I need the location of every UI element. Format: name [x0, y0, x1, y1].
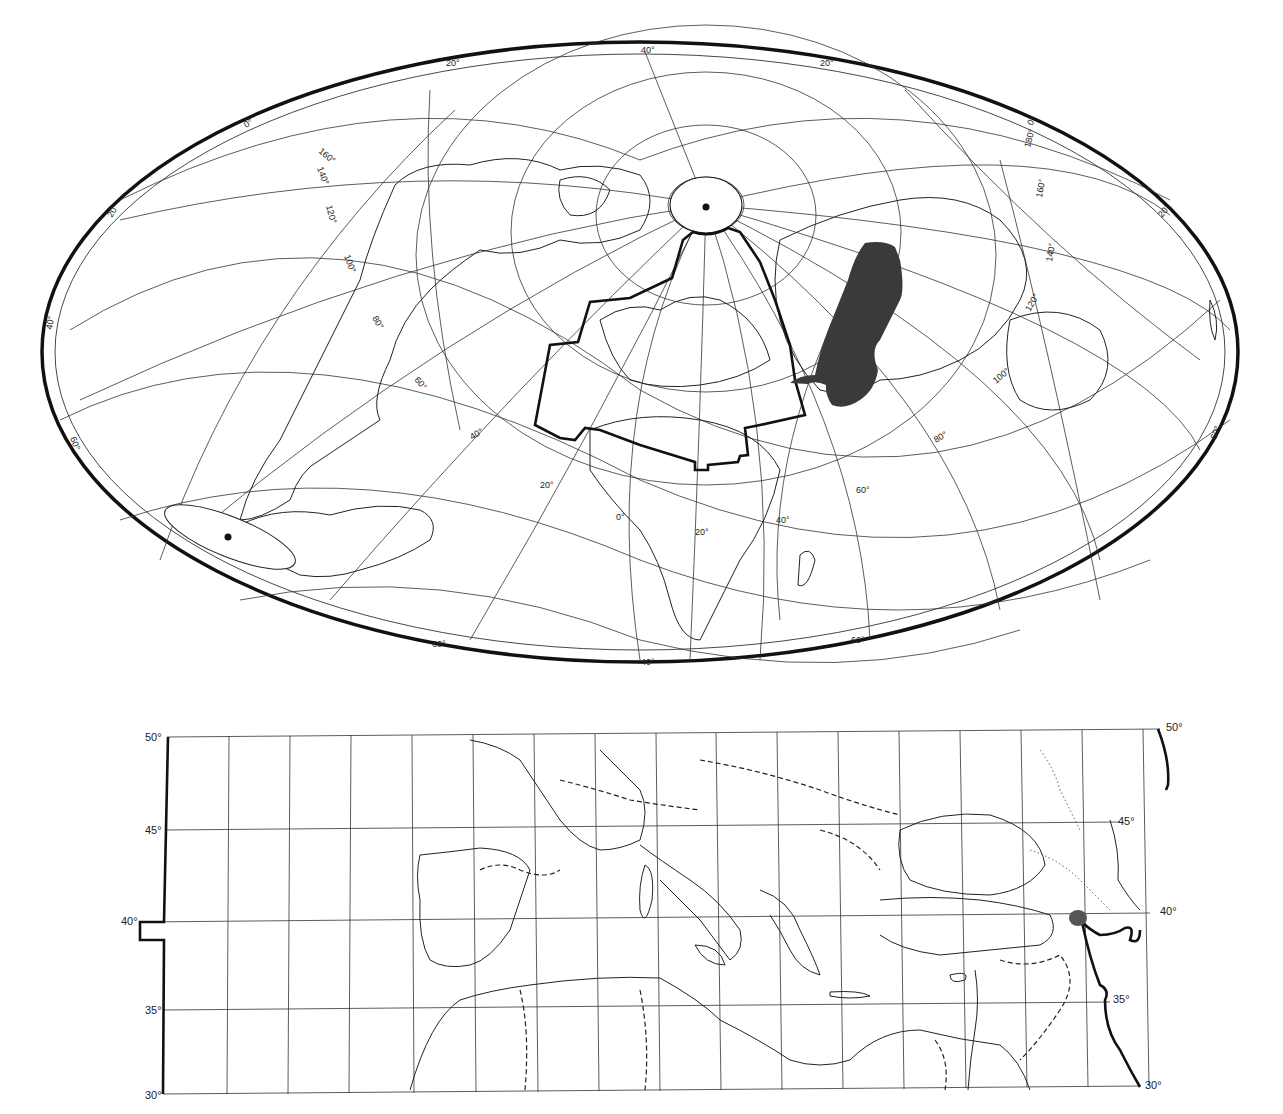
- label-mid-60: 60°: [856, 485, 870, 495]
- map-figure: 40° 20° 20° 0° 160° 140° 120° 100° 80° 6…: [0, 0, 1283, 1114]
- detail-coastlines: [410, 740, 1140, 1090]
- label-mid-0: 0°: [616, 512, 625, 522]
- label-top-40: 40°: [641, 45, 655, 55]
- label-mid-20: 20°: [540, 480, 554, 490]
- lat-label-45-left: 45°: [145, 824, 162, 836]
- label-mid-40b: 40°: [776, 515, 790, 525]
- label-bottom-60-left: 60°: [432, 639, 446, 649]
- label-bottom-40: 40°: [641, 657, 655, 667]
- eastern-boundary: [1082, 729, 1168, 1087]
- map-outer-boundary: [42, 42, 1238, 662]
- south-pole-dot: [225, 534, 232, 541]
- label-top-left-20: 20°: [446, 58, 460, 68]
- lat-label-50-right: 50°: [1166, 721, 1183, 733]
- lat-labels-left: 50° 45° 40° 35° 30°: [121, 731, 162, 1101]
- lower-detail-map: 50° 45° 40° 35° 30° 50° 45° 40° 35° 30°: [121, 721, 1183, 1101]
- lat-label-30-left: 30°: [145, 1089, 162, 1101]
- shaded-spot: [1069, 910, 1087, 926]
- lat-label-40-right: 40°: [1160, 905, 1177, 917]
- north-pole-dot: [703, 204, 710, 211]
- western-boundary: [140, 737, 168, 1094]
- label-bottom-60-right: 60°: [851, 635, 865, 645]
- label-top-right-20: 20°: [820, 58, 834, 68]
- lat-label-35-left: 35°: [145, 1004, 162, 1016]
- lat-label-50-left: 50°: [145, 731, 162, 743]
- parallels: [140, 729, 1160, 1094]
- label-mid-20b: 20°: [695, 527, 709, 537]
- meridians: [227, 729, 1149, 1094]
- lat-label-30-right: 30°: [1145, 1079, 1162, 1091]
- lat-label-45-right: 45°: [1118, 815, 1135, 827]
- national-borders: [480, 750, 1110, 1090]
- upper-world-map: 40° 20° 20° 0° 160° 140° 120° 100° 80° 6…: [42, 25, 1238, 667]
- lat-label-35-right: 35°: [1113, 993, 1130, 1005]
- lat-label-40-left: 40°: [121, 915, 138, 927]
